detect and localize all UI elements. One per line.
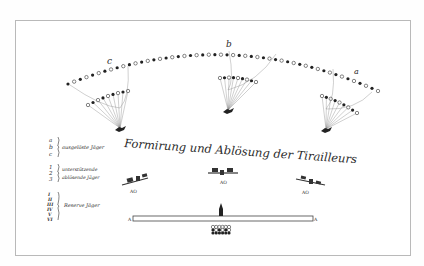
picket-groups <box>70 51 372 133</box>
reserve-block <box>211 225 230 234</box>
legend: a b c ausgelöste Jäger 1 2 3 unterstütze… <box>46 137 105 222</box>
support-label: AO <box>129 189 137 194</box>
skirmish-chain <box>66 53 379 93</box>
svg-text:ausgelöste Jäger: ausgelöste Jäger <box>62 144 105 151</box>
officer-figure-icon <box>219 203 223 216</box>
line-end-left: A <box>127 217 132 222</box>
support-label: AO <box>219 180 227 185</box>
support-right: AO <box>296 176 325 195</box>
plate-title: Formirung und Ablösung der Tirailleurs <box>123 136 358 166</box>
formation-diagram: c b a Formirung und Ablösung der Tiraill… <box>0 0 424 266</box>
svg-text:c: c <box>49 151 52 157</box>
svg-text:b: b <box>49 143 53 150</box>
svg-text:VI: VI <box>47 217 53 222</box>
svg-text:3: 3 <box>49 176 53 182</box>
support-center: AO <box>208 168 238 185</box>
label-b: b <box>226 39 232 49</box>
page: c b a Formirung und Ablösung der Tiraill… <box>0 0 424 266</box>
label-a: a <box>354 67 359 76</box>
support-left: AO <box>122 173 148 194</box>
line-end-right: A <box>313 217 318 222</box>
svg-text:ablösende Jäger: ablösende Jäger <box>62 175 100 181</box>
label-c: c <box>107 56 112 66</box>
svg-text:unterstützende: unterstützende <box>62 167 98 172</box>
support-label: AO <box>301 190 309 195</box>
svg-text:Reserve Jäger: Reserve Jäger <box>63 202 100 209</box>
reserve-line: A A <box>127 203 318 222</box>
